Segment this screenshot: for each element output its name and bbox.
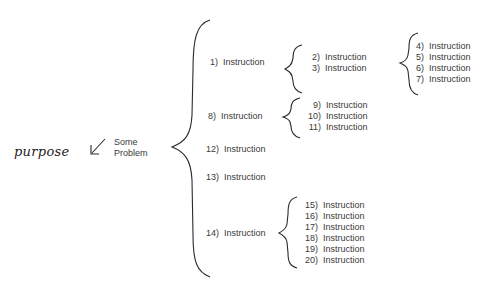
arrow-icon-line	[92, 139, 105, 153]
group3-item-4: 4)Instruction	[408, 41, 471, 52]
group1-item-3: 3)Instruction	[304, 63, 367, 74]
level1-item-14: 14) Instruction	[206, 228, 266, 239]
brace-group-8	[283, 98, 300, 138]
group14-item-15: 15)Instruction	[302, 200, 365, 211]
brace-group-1	[285, 45, 302, 93]
brace-group-14	[279, 197, 297, 268]
main-brace	[172, 20, 210, 277]
group8-item-9: 9)Instruction	[305, 100, 368, 111]
handwritten-purpose-label: purpose	[14, 144, 70, 159]
group14-item-16: 16)Instruction	[302, 211, 365, 222]
group14-item-19: 19)Instruction	[302, 244, 365, 255]
group3-item-7: 7)Instruction	[408, 74, 471, 85]
level1-item-8: 8) Instruction	[208, 111, 263, 122]
group14-item-18: 18)Instruction	[302, 233, 365, 244]
group3-item-6: 6)Instruction	[408, 63, 471, 74]
level1-item-13: 13) Instruction	[206, 172, 266, 183]
level1-item-12: 12) Instruction	[206, 144, 266, 155]
root-node-line1: Some	[114, 137, 138, 148]
group1-item-2: 2)Instruction	[304, 52, 367, 63]
group14-item-17: 17)Instruction	[302, 222, 365, 233]
group8-item-10: 10)Instruction	[305, 111, 368, 122]
level1-item-1: 1) Instruction	[210, 57, 265, 68]
root-node-line2: Problem	[114, 148, 148, 159]
group14-item-20: 20)Instruction	[302, 255, 365, 266]
group8-item-11: 11)Instruction	[305, 122, 368, 133]
group3-item-5: 5)Instruction	[408, 52, 471, 63]
